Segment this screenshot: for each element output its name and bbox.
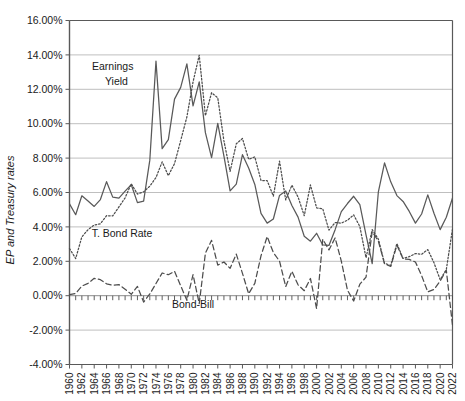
annotation-earnings: Earnings (92, 60, 133, 72)
x-axis-tick-label: 2006 (348, 372, 359, 395)
x-axis-tick-label: 1992 (262, 372, 273, 395)
x-axis-tick-label: 2012 (385, 372, 396, 395)
x-axis-tick-label: 2000 (311, 372, 322, 395)
x-axis-tick-label: 1972 (138, 372, 149, 395)
x-axis-tick-label: 1984 (212, 372, 223, 395)
chart-container: 16.00%14.00%12.00%10.00%8.00%6.00%4.00%2… (0, 0, 465, 401)
y-axis-tick-label: 8.00% (33, 152, 63, 164)
x-axis-tick-label: 2004 (336, 372, 347, 395)
x-axis-tick-label: 2010 (373, 372, 384, 395)
y-axis-tick-label: 2.00% (33, 255, 63, 267)
x-axis-tick-label: 1990 (249, 372, 260, 395)
x-axis-tick-label: 1978 (175, 372, 186, 395)
x-axis-tick-label: 1986 (225, 372, 236, 395)
x-axis-tick-label: 1960 (64, 372, 75, 395)
x-axis-tick-label: 1964 (89, 372, 100, 395)
y-axis-tick-label: 0.00% (33, 289, 63, 301)
x-axis-tick-label: 1996 (286, 372, 297, 395)
x-axis-tick-label: 1988 (237, 372, 248, 395)
annotation-bond-bill: Bond-Bill (172, 298, 214, 310)
x-axis-tick-label: 1968 (114, 372, 125, 395)
earnings-yield-treasury-rates-chart: 16.00%14.00%12.00%10.00%8.00%6.00%4.00%2… (0, 0, 465, 401)
x-axis-tick-label: 2016 (410, 372, 421, 395)
x-axis-tick-label: 1962 (76, 372, 87, 395)
x-axis-tick-label: 2014 (398, 372, 409, 395)
x-axis-tick-label: 2022 (447, 372, 458, 395)
x-axis-tick-label: 1980 (188, 372, 199, 395)
y-axis-tick-label: 16.00% (27, 14, 63, 26)
y-axis-tick-label: 10.00% (27, 117, 63, 129)
y-axis-tick-label: 6.00% (33, 186, 63, 198)
y-axis-tick-label: -2.00% (29, 324, 62, 336)
x-axis-tick-label: 2018 (422, 372, 433, 395)
annotation-t-bond-rate: T. Bond Rate (92, 227, 153, 239)
y-axis-title: EP and Treasury rates (4, 155, 16, 264)
x-axis-tick-label: 2002 (324, 372, 335, 395)
x-axis-tick-label: 1994 (274, 372, 285, 395)
x-axis-tick-label: 2020 (435, 372, 446, 395)
x-axis-tick-label: 2008 (361, 372, 372, 395)
x-axis-tick-label: 1970 (126, 372, 137, 395)
x-axis-tick-label: 1976 (163, 372, 174, 395)
annotation-yield: Yield (105, 75, 128, 87)
x-axis-tick-label: 1982 (200, 372, 211, 395)
y-axis-tick-label: -4.00% (29, 358, 62, 370)
x-axis-tick-label: 1966 (101, 372, 112, 395)
x-axis-tick-label: 1998 (299, 372, 310, 395)
y-axis-tick-label: 4.00% (33, 221, 63, 233)
y-axis-tick-label: 14.00% (27, 49, 63, 61)
y-axis-tick-label: 12.00% (27, 83, 63, 95)
x-axis-tick-label: 1974 (151, 372, 162, 395)
